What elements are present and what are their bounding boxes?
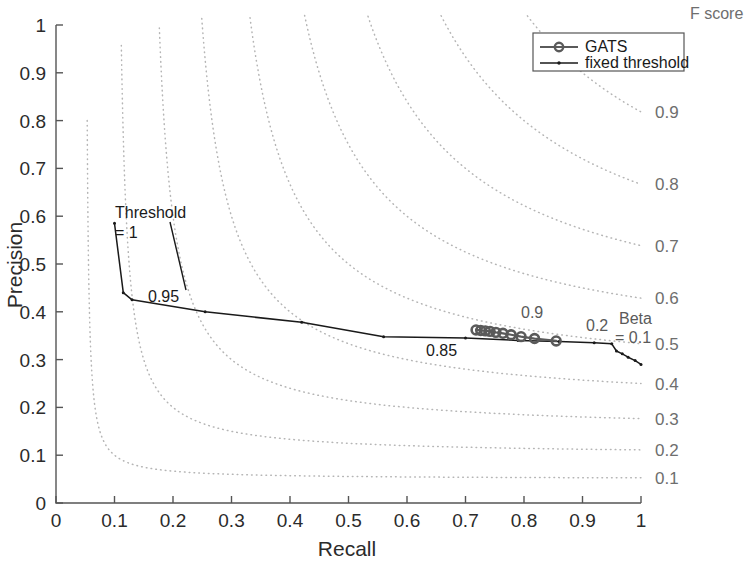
x-tick-label: 0.1 xyxy=(101,510,127,531)
data-point-marker xyxy=(640,363,643,366)
x-tick-label: 0 xyxy=(51,510,62,531)
annotation-label: Beta xyxy=(619,310,652,327)
f-score-label-0.4: 0.4 xyxy=(655,375,679,394)
y-tick-label: 0 xyxy=(35,493,46,514)
data-point-marker xyxy=(610,342,613,345)
annotation-label: 0.2 xyxy=(586,317,608,334)
data-point-marker xyxy=(634,359,637,362)
f-score-label-0.6: 0.6 xyxy=(655,289,679,308)
y-tick-label: 0.1 xyxy=(20,445,46,466)
data-point-marker xyxy=(464,337,467,340)
y-tick-label: 0.9 xyxy=(20,63,46,84)
chart-legend[interactable]: GATS fixed threshold xyxy=(533,33,689,71)
x-tick-label: 0.8 xyxy=(511,510,537,531)
data-point-marker xyxy=(131,298,134,301)
y-tick-label: 0.8 xyxy=(20,111,46,132)
y-tick-label: 0.2 xyxy=(20,397,46,418)
legend-label-fixed-threshold: fixed threshold xyxy=(585,54,689,71)
precision-recall-chart: 00.10.20.30.40.50.60.70.80.91 00.10.20.3… xyxy=(0,0,749,573)
data-point-marker xyxy=(122,291,125,294)
x-axis-title: Recall xyxy=(318,537,376,560)
x-tick-label: 0.3 xyxy=(218,510,244,531)
annotation-label: 0.9 xyxy=(521,304,543,321)
data-point-marker xyxy=(615,349,618,352)
legend-marker-dot-icon xyxy=(557,61,560,64)
f-score-label-0.7: 0.7 xyxy=(655,237,679,256)
x-tick-label: 0.7 xyxy=(452,510,478,531)
annotation-label: 0.85 xyxy=(426,342,457,359)
f-score-label-0.9: 0.9 xyxy=(655,103,679,122)
data-point-marker xyxy=(593,341,596,344)
f-score-label-0.5: 0.5 xyxy=(655,335,679,354)
y-tick-label: 0.3 xyxy=(20,350,46,371)
chart-canvas: 00.10.20.30.40.50.60.70.80.91 00.10.20.3… xyxy=(0,0,749,573)
annotation-label: 0.95 xyxy=(148,288,179,305)
x-tick-label: 1 xyxy=(636,510,647,531)
y-axis-title: Precision xyxy=(3,222,26,308)
f-score-label-0.2: 0.2 xyxy=(655,441,679,460)
data-point-marker xyxy=(621,352,624,355)
data-point-marker xyxy=(204,310,207,313)
x-tick-label: 0.2 xyxy=(160,510,186,531)
annotation-label: = 1 xyxy=(115,224,138,241)
data-point-marker xyxy=(382,335,385,338)
x-tick-label: 0.6 xyxy=(394,510,420,531)
data-point-marker xyxy=(300,321,303,324)
annotation-label: = 0.1 xyxy=(615,329,651,346)
x-tick-label: 0.4 xyxy=(277,510,304,531)
y-tick-label: 0.7 xyxy=(20,158,46,179)
f-score-label-0.1: 0.1 xyxy=(655,469,679,488)
x-tick-label: 0.5 xyxy=(335,510,361,531)
legend-label-gats: GATS xyxy=(585,38,627,55)
y-tick-label: 1 xyxy=(35,15,46,36)
annotation-label: Threshold xyxy=(115,204,186,221)
data-point-marker xyxy=(627,356,630,359)
f-score-axis-title: F score xyxy=(690,5,743,22)
x-tick-label: 0.9 xyxy=(569,510,595,531)
f-score-label-0.3: 0.3 xyxy=(655,410,679,429)
f-score-label-0.8: 0.8 xyxy=(655,175,679,194)
chart-background xyxy=(0,0,749,573)
